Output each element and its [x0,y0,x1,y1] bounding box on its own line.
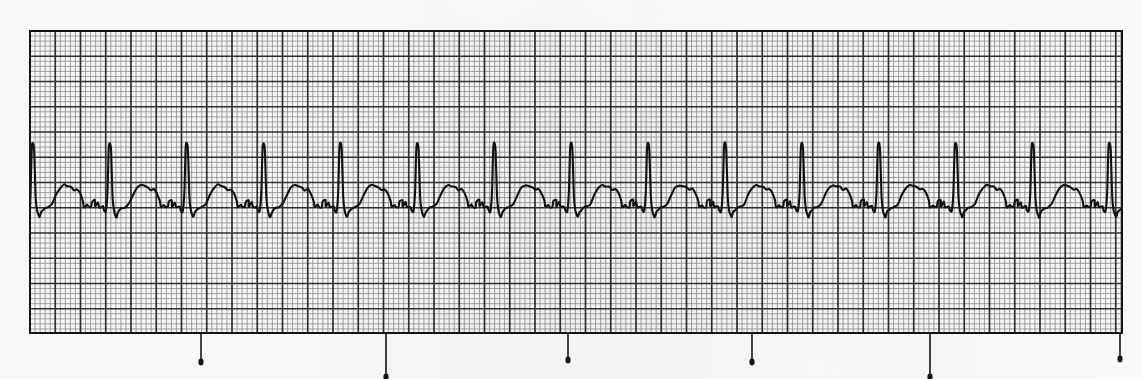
ecg-canvas [0,0,1143,379]
ecg-rhythm-strip [0,0,1143,379]
